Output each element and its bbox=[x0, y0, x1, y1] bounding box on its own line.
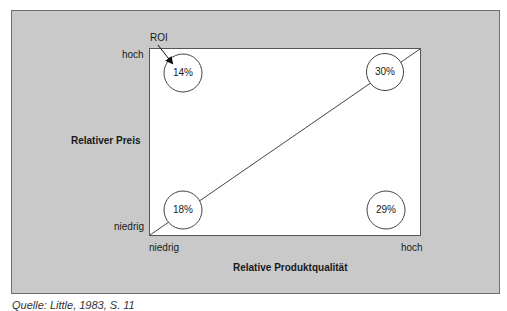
roi-value-bottom-right: 29% bbox=[366, 205, 406, 215]
source-caption: Quelle: Little, 1983, S. 11 bbox=[12, 299, 135, 311]
roi-value-top-right: 30% bbox=[365, 67, 405, 77]
y-axis-high-label: hoch bbox=[122, 50, 144, 60]
y-axis-low-label: niedrig bbox=[114, 222, 144, 232]
y-axis-title: Relativer Preis bbox=[71, 136, 141, 146]
x-axis-high-label: hoch bbox=[401, 243, 423, 253]
roi-value-top-left: 14% bbox=[163, 68, 203, 78]
roi-arrow-icon bbox=[158, 45, 172, 63]
x-axis-low-label: niedrig bbox=[149, 243, 179, 253]
roi-value-bottom-left: 18% bbox=[163, 205, 203, 215]
x-axis-title: Relative Produktqualität bbox=[233, 263, 347, 273]
roi-annotation: ROI bbox=[150, 33, 168, 43]
